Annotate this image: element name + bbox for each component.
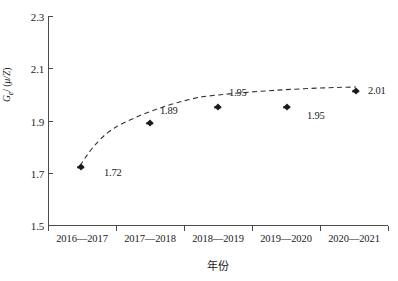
y-axis-tick-label: 1.9 [31,116,44,127]
y-axis-tick: 2.1 [48,68,53,69]
x-axis-tick [320,226,321,231]
x-axis-tick [48,226,49,231]
data-point-marker [352,87,359,94]
data-point-marker [214,103,221,110]
y-axis-tick-label: 2.1 [31,63,44,74]
data-point-label: 1.89 [160,106,178,117]
data-point-marker [283,103,290,110]
x-axis-line [48,225,388,226]
y-axis-tick: 1.9 [48,121,53,122]
x-axis-tick-label: 2020—2021 [328,234,380,245]
y-axis-tick-label: 1.5 [31,220,44,231]
data-point-label: 1.72 [104,168,122,179]
y-axis-tick-label: 1.7 [31,168,44,179]
x-axis-title: 年份 [48,257,388,273]
y-axis-units: μ/Z [2,71,12,84]
x-axis-tick [184,226,185,231]
data-point-label: 1.95 [229,88,247,99]
x-axis-tick-label: 2017—2018 [124,234,176,245]
x-axis-tick [388,226,389,231]
x-axis-tick [252,226,253,231]
y-axis-symbol: G [2,95,12,102]
data-point-label: 2.01 [368,86,386,97]
y-axis-title: Ge/ (μ/Z) [3,86,15,102]
y-axis-title-text: Ge/ (μ/Z) [3,68,15,102]
data-point-label: 1.95 [307,111,325,122]
x-axis-tick-label: 2016—2017 [56,234,108,245]
x-axis-tick-label: 2018—2019 [192,234,244,245]
y-axis-tick: 1.7 [48,173,53,174]
y-axis-closer: ) [2,68,12,71]
x-axis-tick-label: 2019—2020 [260,234,312,245]
data-point-marker [146,119,153,126]
y-axis-separator: / ( [2,84,12,92]
y-axis-tick: 2.3 [48,16,53,17]
chart-figure: 1.5 1.7 1.9 2.1 2.3 2016—2017 2017—2018 … [0,0,398,281]
y-axis-tick-label: 2.3 [31,11,44,22]
x-axis-tick [116,226,117,231]
data-point-marker [77,163,84,170]
y-axis-subscript: e [6,92,15,96]
